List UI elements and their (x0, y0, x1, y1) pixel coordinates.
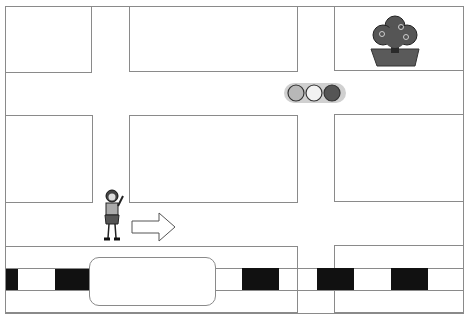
block-middle-right (334, 114, 464, 202)
traffic-light-icon (283, 82, 347, 104)
block-middle-left (5, 115, 93, 203)
block-top-left (5, 6, 92, 73)
tree-in-planter-icon (369, 15, 421, 69)
rounded-box (89, 257, 216, 306)
crosswalk-stripe (391, 268, 428, 290)
crosswalk-line-bottom (5, 290, 464, 291)
block-middle-center (129, 115, 298, 203)
crosswalk-stripe (242, 268, 279, 290)
crosswalk-stripe (317, 268, 354, 290)
crosswalk-stripe (6, 269, 18, 290)
block-top-center (129, 6, 298, 72)
map-diagram (0, 0, 467, 316)
crosswalk-stripe (55, 269, 89, 290)
arrow-right-icon (131, 212, 177, 242)
person-icon (101, 188, 127, 243)
